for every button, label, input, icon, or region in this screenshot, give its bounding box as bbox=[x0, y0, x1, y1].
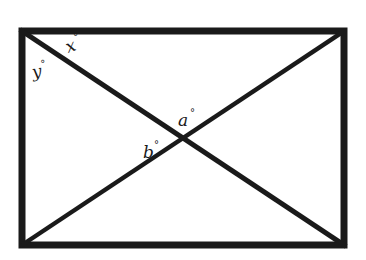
angle-label-a-degree: ° bbox=[190, 107, 195, 118]
angle-label-b-degree: ° bbox=[154, 139, 159, 150]
angle-label-x: x ° bbox=[62, 31, 85, 57]
angle-label-b-text: b bbox=[143, 142, 154, 162]
angle-label-y: y ° bbox=[29, 58, 49, 82]
angle-label-b: b ° bbox=[143, 139, 159, 162]
angle-label-a: a ° bbox=[178, 107, 195, 130]
rectangle-diagonals-diagram: y ° x ° a ° b ° bbox=[0, 0, 366, 260]
angle-label-a-text: a bbox=[178, 110, 188, 130]
angle-label-y-degree: ° bbox=[40, 58, 47, 70]
